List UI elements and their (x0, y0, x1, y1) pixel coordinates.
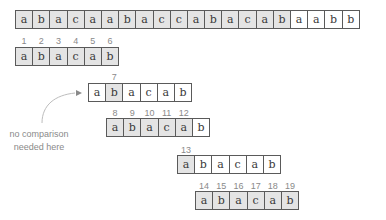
annotation-line-1: no comparison (2, 128, 76, 141)
curved-arrow-icon (0, 0, 386, 220)
annotation-line-2: needed here (2, 141, 76, 154)
annotation-label: no comparison needed here (2, 128, 76, 154)
